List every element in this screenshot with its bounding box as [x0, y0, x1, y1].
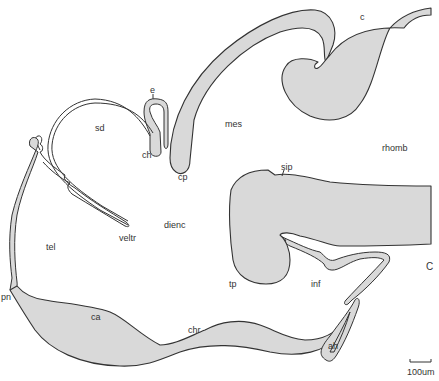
anatomical-diagram: c e sd ch cp mes rhomb sip dienc veltr t…: [0, 0, 439, 381]
panel-label: C: [426, 262, 433, 272]
ventral-floor: [10, 286, 345, 366]
label-mes: mes: [225, 120, 242, 129]
label-ch: ch: [142, 151, 152, 160]
telencephalon-wall: [10, 137, 39, 291]
label-pn: pn: [1, 293, 11, 302]
label-ah: ah: [328, 342, 338, 351]
label-tp: tp: [229, 280, 237, 289]
label-veltr: veltr: [119, 234, 136, 243]
label-dienc: dienc: [164, 221, 186, 230]
diagram-drawing: [0, 0, 439, 381]
label-c: c: [360, 13, 365, 22]
label-tel: tel: [46, 243, 56, 252]
label-rhomb: rhomb: [382, 144, 408, 153]
adenohypophysis: [321, 298, 359, 361]
label-sip: sip: [281, 163, 293, 172]
label-inf: inf: [311, 280, 321, 289]
label-ca: ca: [91, 313, 101, 322]
dorsal-sac-outer: [48, 99, 150, 225]
dorsal-sac-inner: [52, 103, 153, 221]
label-cp: cp: [178, 173, 188, 182]
label-sd: sd: [95, 124, 105, 133]
scale-bar: [410, 359, 431, 362]
label-e: e: [150, 86, 155, 95]
scale-bar-label: 100um: [407, 368, 435, 377]
epiphysis-fold: [144, 99, 168, 157]
label-chr: chr: [188, 326, 201, 335]
